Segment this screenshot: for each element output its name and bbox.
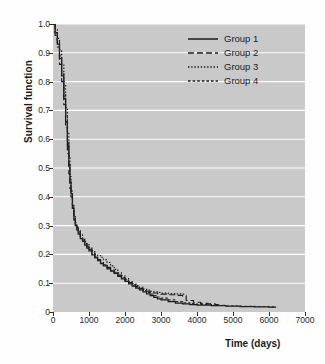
x-tick-label: 5000 [213, 315, 253, 325]
x-tick-label: 0 [33, 315, 73, 325]
y-tick-label: 0.6 [24, 135, 50, 143]
x-tick-label: 1000 [69, 315, 109, 325]
legend-label-group-4: Group 4 [224, 75, 258, 86]
y-tick-mark [49, 226, 53, 227]
x-tick-mark [197, 312, 198, 316]
x-tick-mark [89, 312, 90, 316]
legend-label-group-1: Group 1 [224, 33, 258, 44]
x-tick-mark [269, 312, 270, 316]
plot-canvas: Group 1Group 2Group 3Group 4 [53, 24, 305, 312]
y-tick-mark [49, 168, 53, 169]
x-tick-label: 4000 [177, 315, 217, 325]
y-tick-mark [49, 254, 53, 255]
y-tick-mark [49, 53, 53, 54]
y-tick-mark [49, 197, 53, 198]
y-tick-label: 0.8 [24, 78, 50, 86]
x-tick-mark [53, 312, 54, 316]
y-tick-mark [49, 139, 53, 140]
x-axis-title: Time (days) [225, 338, 280, 349]
x-tick-label: 3000 [141, 315, 181, 325]
y-tick-label: 0.9 [24, 49, 50, 57]
y-tick-label: 0.3 [24, 222, 50, 230]
y-tick-mark [49, 82, 53, 83]
y-tick-mark [49, 110, 53, 111]
x-tick-mark [233, 312, 234, 316]
y-tick-label: 0.7 [24, 106, 50, 114]
legend-label-group-3: Group 3 [224, 61, 258, 72]
y-tick-mark [49, 283, 53, 284]
x-tick-label: 2000 [105, 315, 145, 325]
y-tick-label: 0.1 [24, 279, 50, 287]
y-tick-mark [49, 24, 53, 25]
x-tick-mark [305, 312, 306, 316]
x-axis-tick-labels: 01000200030004000500060007000 [0, 315, 325, 329]
y-tick-label: 0.5 [24, 164, 50, 172]
plot-area: Group 1Group 2Group 3Group 4 [53, 24, 305, 312]
x-tick-mark [161, 312, 162, 316]
survival-function-chart: Survival function 00.10.20.30.40.50.60.7… [0, 0, 325, 364]
x-tick-mark [125, 312, 126, 316]
legend-label-group-2: Group 2 [224, 47, 258, 58]
x-tick-label: 7000 [285, 315, 325, 325]
y-tick-label: 1.0 [24, 20, 50, 28]
y-axis-tick-labels: 00.10.20.30.40.50.60.70.80.91.0 [22, 0, 50, 364]
y-tick-label: 0.2 [24, 250, 50, 258]
x-tick-label: 6000 [249, 315, 289, 325]
y-tick-label: 0.4 [24, 193, 50, 201]
